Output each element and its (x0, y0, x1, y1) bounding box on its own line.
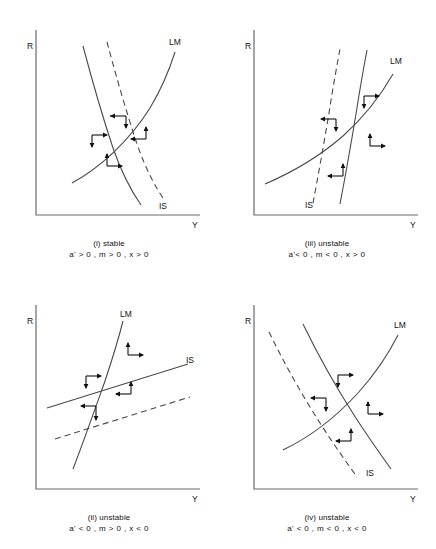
panel-iv-caption-line1: (iv) unstable (218, 512, 436, 523)
axes (254, 305, 418, 489)
arrow-cluster-left (84, 374, 102, 389)
panel-i-plot: R Y LM IS (0, 0, 218, 275)
panel-i-caption-line2: a' > 0 , m > 0 , x > 0 (0, 249, 218, 260)
panel-ii-caption: (ii) unstable a' < 0 , m > 0 , x < 0 (0, 512, 218, 534)
axes (36, 305, 200, 489)
lm-curve (73, 321, 123, 469)
panel-ii-caption-line1: (ii) unstable (0, 512, 218, 523)
is-curve-label: IS (366, 468, 374, 478)
panel-iii-caption: (iii) unstable a'< 0 , m < 0 , x > 0 (218, 238, 436, 260)
arrow-cluster-right (115, 381, 133, 396)
y-axis-label: R (27, 41, 33, 51)
arrow-cluster-left (310, 396, 328, 412)
isl-m-figure-grid: R Y LM IS (i) stable a' > 0 , m > 0 , x … (0, 0, 436, 549)
arrow-cluster-right (366, 401, 384, 416)
panel-iii-caption-line2: a'< 0 , m < 0 , x > 0 (218, 249, 436, 260)
panel-iv-caption-line2: a' < 0 , m < 0 , x < 0 (218, 523, 436, 534)
panel-ii: R Y LM IS (ii) unstable a' < 0 , m > 0 ,… (0, 275, 218, 549)
panel-i-caption-line1: (i) stable (0, 238, 218, 249)
y-axis-label: R (245, 41, 251, 51)
panel-iii-plot: R Y LM IS (218, 0, 436, 275)
x-axis-label: Y (192, 220, 198, 230)
is-shift-curve (269, 332, 357, 477)
panel-i: R Y LM IS (i) stable a' > 0 , m > 0 , x … (0, 0, 218, 275)
lm-curve-label: LM (394, 320, 406, 330)
arrow-cluster-left (320, 117, 338, 132)
lm-curve-label: LM (390, 56, 402, 66)
axes (36, 30, 200, 215)
is-curve (340, 50, 367, 204)
panel-i-caption: (i) stable a' > 0 , m > 0 , x > 0 (0, 238, 218, 260)
lm-curve-label: LM (169, 37, 181, 47)
is-curve-label: IS (159, 201, 167, 211)
y-axis-label: R (27, 316, 33, 326)
panel-ii-plot: R Y LM IS (0, 275, 218, 549)
is-curve (303, 324, 391, 469)
panel-iv-plot: R Y LM IS (218, 275, 436, 549)
arrow-cluster-upper (110, 114, 128, 129)
is-curve-label: IS (305, 200, 313, 210)
is-curve (47, 364, 188, 408)
y-axis-label: R (245, 316, 251, 326)
is-curve (83, 46, 141, 205)
panel-iv-caption: (iv) unstable a' < 0 , m < 0 , x < 0 (218, 512, 436, 534)
panel-ii-caption-line2: a' < 0 , m > 0 , x < 0 (0, 523, 218, 534)
lm-curve (265, 74, 393, 184)
arrow-cluster-right (368, 133, 386, 148)
arrow-cluster-lower (80, 404, 98, 421)
panel-iv: R Y LM IS (iv) unstable a' < 0 , m < 0 ,… (218, 275, 436, 549)
lm-curve (72, 52, 175, 183)
panel-iii-caption-line1: (iii) unstable (218, 238, 436, 249)
arrow-cluster-lower (327, 163, 345, 178)
arrow-cluster-upper (126, 342, 144, 357)
arrow-cluster-right (130, 126, 148, 141)
lm-curve-label: LM (120, 309, 132, 319)
panel-iii: R Y LM IS (iii) unstable a'< 0 , m < 0 ,… (218, 0, 436, 275)
x-axis-label: Y (410, 220, 416, 230)
is-shift-curve (107, 42, 165, 201)
is-curve-label: IS (186, 355, 194, 365)
x-axis-label: Y (192, 494, 198, 504)
arrow-cluster-lower (105, 153, 123, 168)
x-axis-label: Y (410, 494, 416, 504)
arrow-cluster-lower (335, 428, 353, 443)
arrow-cluster-upper (336, 373, 354, 388)
is-shift-curve (55, 397, 190, 439)
arrow-cluster-left (90, 133, 108, 148)
